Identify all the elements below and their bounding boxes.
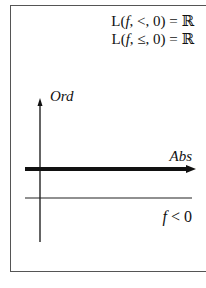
abscissa-arrowhead-icon [186,165,196,173]
condition-label: f < 0 [163,209,192,225]
abscissa-label: Abs [170,149,193,164]
axes-graphic [0,0,206,288]
ordinate-label: Ord [50,89,74,104]
ordinate-arrowhead-icon [38,98,43,106]
condition-rest: < 0 [167,208,192,225]
